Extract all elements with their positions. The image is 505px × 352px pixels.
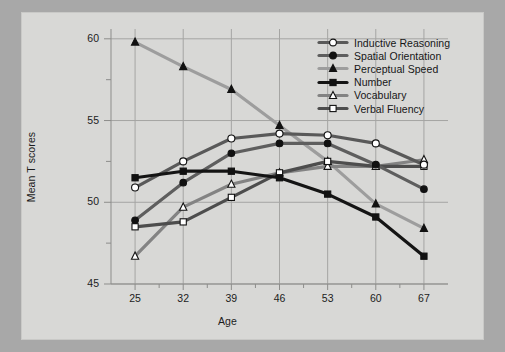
x-tick-label: 46	[265, 292, 295, 304]
legend-label: Spatial Orientation	[354, 50, 441, 62]
data-point-marker	[421, 253, 427, 259]
data-point-marker	[325, 191, 331, 197]
legend-label: Perceptual Speed	[354, 63, 438, 75]
data-point-marker	[373, 214, 379, 220]
data-point-marker	[132, 175, 138, 181]
x-tick-label: 25	[120, 292, 150, 304]
data-point-marker	[180, 168, 186, 174]
legend-item-vocabulary[interactable]: Vocabulary	[317, 89, 450, 102]
figure-canvas: 45505560 25323946536067 Mean T scores Ag…	[0, 0, 505, 352]
legend-label: Vocabulary	[354, 89, 406, 101]
data-point-marker	[180, 179, 187, 186]
data-point-marker	[372, 161, 379, 168]
y-tick-label: 45	[75, 277, 99, 289]
legend-swatch-triangle-open	[317, 89, 349, 102]
x-tick-label: 60	[361, 292, 391, 304]
data-point-marker	[228, 194, 234, 200]
y-tick-label: 50	[75, 195, 99, 207]
data-point-marker	[324, 132, 331, 139]
data-point-marker	[372, 140, 379, 147]
chart-plate: 45505560 25323946536067 Mean T scores Ag…	[22, 13, 483, 339]
legend-swatch-square-open	[317, 102, 349, 115]
legend-item-inductive-reasoning[interactable]: Inductive Reasoning	[317, 36, 450, 49]
legend-item-perceptual-speed[interactable]: Perceptual Speed	[317, 62, 450, 75]
legend-swatch-circle-open	[317, 36, 349, 49]
data-point-marker	[276, 140, 283, 147]
x-axis-title: Age	[218, 315, 237, 327]
legend-swatch-circle-filled	[317, 49, 349, 62]
data-point-marker	[228, 168, 234, 174]
data-point-marker	[132, 217, 139, 224]
legend-label: Number	[354, 76, 392, 88]
y-tick-label: 55	[75, 114, 99, 126]
legend-label: Verbal Fluency	[354, 103, 424, 115]
data-point-marker	[276, 130, 283, 137]
legend-label: Inductive Reasoning	[354, 37, 450, 49]
data-point-marker	[276, 175, 282, 181]
y-axis-title: Mean T scores	[25, 132, 37, 202]
data-point-marker	[325, 158, 331, 164]
legend-swatch-triangle-filled	[317, 62, 349, 75]
data-point-marker	[420, 161, 427, 168]
legend-swatch-square-filled	[317, 76, 349, 89]
x-tick-label: 39	[216, 292, 246, 304]
chart-legend: Inductive ReasoningSpatial OrientationPe…	[317, 36, 450, 115]
data-point-marker	[228, 150, 235, 157]
data-point-marker	[132, 184, 139, 191]
data-point-marker	[421, 186, 428, 193]
x-tick-label: 32	[168, 292, 198, 304]
y-tick-label: 60	[75, 32, 99, 44]
data-point-marker	[228, 135, 235, 142]
legend-item-number[interactable]: Number	[317, 76, 450, 89]
legend-item-spatial-orientation[interactable]: Spatial Orientation	[317, 49, 450, 62]
x-tick-label: 53	[313, 292, 343, 304]
data-point-marker	[324, 140, 331, 147]
data-point-marker	[180, 158, 187, 165]
data-point-marker	[132, 224, 138, 230]
x-tick-label: 67	[409, 292, 439, 304]
legend-item-verbal-fluency[interactable]: Verbal Fluency	[317, 102, 450, 115]
data-point-marker	[180, 219, 186, 225]
